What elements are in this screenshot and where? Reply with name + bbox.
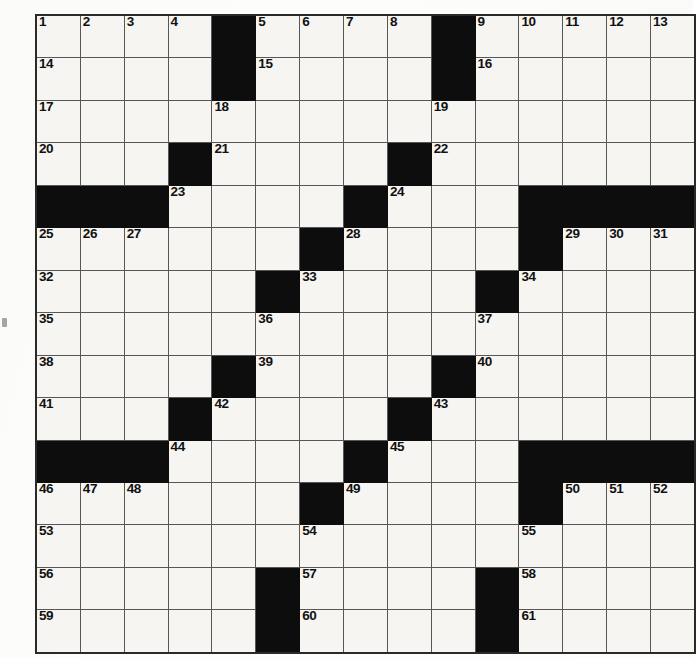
grid-letter-cell[interactable]: 39: [256, 355, 300, 397]
grid-letter-cell[interactable]: [519, 355, 563, 397]
grid-letter-cell[interactable]: 28: [344, 228, 388, 270]
grid-letter-cell[interactable]: [300, 100, 344, 142]
grid-letter-cell[interactable]: [387, 567, 431, 609]
grid-letter-cell[interactable]: [431, 313, 475, 355]
grid-letter-cell[interactable]: [387, 228, 431, 270]
grid-letter-cell[interactable]: [387, 100, 431, 142]
grid-letter-cell[interactable]: [124, 398, 168, 440]
grid-letter-cell[interactable]: 60: [300, 610, 344, 653]
grid-letter-cell[interactable]: 42: [212, 398, 256, 440]
grid-letter-cell[interactable]: [300, 58, 344, 100]
grid-letter-cell[interactable]: 51: [607, 482, 651, 524]
grid-letter-cell[interactable]: [519, 143, 563, 185]
grid-letter-cell[interactable]: [124, 567, 168, 609]
grid-letter-cell[interactable]: [431, 440, 475, 482]
grid-letter-cell[interactable]: [563, 313, 607, 355]
grid-letter-cell[interactable]: [80, 100, 124, 142]
grid-letter-cell[interactable]: [344, 567, 388, 609]
grid-letter-cell[interactable]: 32: [36, 270, 80, 312]
grid-letter-cell[interactable]: 52: [651, 482, 695, 524]
grid-letter-cell[interactable]: 30: [607, 228, 651, 270]
grid-letter-cell[interactable]: 36: [256, 313, 300, 355]
grid-letter-cell[interactable]: [212, 525, 256, 567]
grid-letter-cell[interactable]: [563, 270, 607, 312]
grid-letter-cell[interactable]: 4: [168, 15, 212, 58]
grid-letter-cell[interactable]: [431, 525, 475, 567]
grid-letter-cell[interactable]: [519, 313, 563, 355]
grid-letter-cell[interactable]: [519, 398, 563, 440]
grid-letter-cell[interactable]: [212, 567, 256, 609]
grid-letter-cell[interactable]: [300, 143, 344, 185]
grid-letter-cell[interactable]: 40: [475, 355, 519, 397]
grid-letter-cell[interactable]: 48: [124, 482, 168, 524]
grid-letter-cell[interactable]: [563, 610, 607, 653]
grid-letter-cell[interactable]: [300, 355, 344, 397]
grid-letter-cell[interactable]: [344, 143, 388, 185]
grid-letter-cell[interactable]: [80, 525, 124, 567]
crossword-grid[interactable]: 1234567891011121314151617181920212223242…: [35, 14, 696, 654]
grid-letter-cell[interactable]: [607, 398, 651, 440]
grid-letter-cell[interactable]: 46: [36, 482, 80, 524]
grid-letter-cell[interactable]: 49: [344, 482, 388, 524]
grid-letter-cell[interactable]: [475, 482, 519, 524]
grid-letter-cell[interactable]: 2: [80, 15, 124, 58]
grid-letter-cell[interactable]: [80, 143, 124, 185]
grid-letter-cell[interactable]: 38: [36, 355, 80, 397]
grid-letter-cell[interactable]: [344, 100, 388, 142]
grid-letter-cell[interactable]: [344, 355, 388, 397]
grid-letter-cell[interactable]: [475, 143, 519, 185]
grid-letter-cell[interactable]: [651, 567, 695, 609]
grid-letter-cell[interactable]: [607, 100, 651, 142]
grid-letter-cell[interactable]: 15: [256, 58, 300, 100]
grid-letter-cell[interactable]: [519, 100, 563, 142]
grid-letter-cell[interactable]: [80, 270, 124, 312]
grid-letter-cell[interactable]: [212, 440, 256, 482]
grid-letter-cell[interactable]: [124, 313, 168, 355]
grid-letter-cell[interactable]: 33: [300, 270, 344, 312]
grid-letter-cell[interactable]: [431, 185, 475, 227]
grid-letter-cell[interactable]: [475, 228, 519, 270]
grid-letter-cell[interactable]: [256, 185, 300, 227]
grid-letter-cell[interactable]: [80, 398, 124, 440]
grid-letter-cell[interactable]: [168, 355, 212, 397]
grid-letter-cell[interactable]: [607, 143, 651, 185]
grid-letter-cell[interactable]: 20: [36, 143, 80, 185]
grid-letter-cell[interactable]: [212, 610, 256, 653]
grid-letter-cell[interactable]: 31: [651, 228, 695, 270]
grid-letter-cell[interactable]: [168, 270, 212, 312]
grid-letter-cell[interactable]: [256, 228, 300, 270]
grid-letter-cell[interactable]: 11: [563, 15, 607, 58]
grid-letter-cell[interactable]: [168, 313, 212, 355]
grid-letter-cell[interactable]: [80, 610, 124, 653]
grid-letter-cell[interactable]: [124, 58, 168, 100]
grid-letter-cell[interactable]: [212, 313, 256, 355]
grid-letter-cell[interactable]: [651, 143, 695, 185]
grid-letter-cell[interactable]: [256, 143, 300, 185]
grid-letter-cell[interactable]: [256, 482, 300, 524]
grid-letter-cell[interactable]: [124, 355, 168, 397]
grid-letter-cell[interactable]: [168, 228, 212, 270]
grid-letter-cell[interactable]: 6: [300, 15, 344, 58]
grid-letter-cell[interactable]: [431, 228, 475, 270]
grid-letter-cell[interactable]: 18: [212, 100, 256, 142]
grid-letter-cell[interactable]: [475, 525, 519, 567]
grid-letter-cell[interactable]: 16: [475, 58, 519, 100]
grid-letter-cell[interactable]: [387, 313, 431, 355]
grid-letter-cell[interactable]: 12: [607, 15, 651, 58]
grid-letter-cell[interactable]: 57: [300, 567, 344, 609]
grid-letter-cell[interactable]: [256, 398, 300, 440]
grid-letter-cell[interactable]: [344, 525, 388, 567]
grid-letter-cell[interactable]: 8: [387, 15, 431, 58]
grid-letter-cell[interactable]: 26: [80, 228, 124, 270]
grid-letter-cell[interactable]: [387, 355, 431, 397]
grid-letter-cell[interactable]: [475, 398, 519, 440]
grid-letter-cell[interactable]: [651, 398, 695, 440]
grid-letter-cell[interactable]: [344, 398, 388, 440]
grid-letter-cell[interactable]: [212, 270, 256, 312]
grid-letter-cell[interactable]: [344, 58, 388, 100]
grid-letter-cell[interactable]: 25: [36, 228, 80, 270]
grid-letter-cell[interactable]: 47: [80, 482, 124, 524]
grid-letter-cell[interactable]: [80, 355, 124, 397]
grid-letter-cell[interactable]: [607, 567, 651, 609]
grid-letter-cell[interactable]: 21: [212, 143, 256, 185]
